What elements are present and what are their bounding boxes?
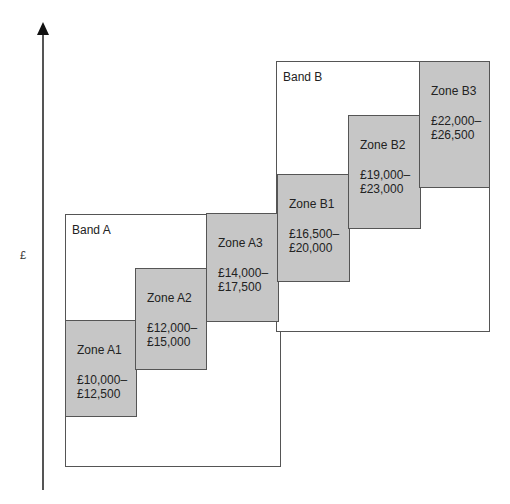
y-axis-label: £ bbox=[20, 249, 26, 261]
band-a-label: Band A bbox=[72, 223, 111, 237]
zone-name: Zone B2 bbox=[360, 138, 405, 152]
zone-range: £10,000–£12,500 bbox=[77, 373, 127, 401]
band-b-label: Band B bbox=[283, 70, 322, 84]
zone-b3: Zone B3 £22,000–£26,500 bbox=[419, 61, 490, 188]
axis-arrow-icon bbox=[37, 22, 49, 35]
zone-name: Zone B1 bbox=[289, 197, 334, 211]
zone-range: £22,000–£26,500 bbox=[431, 114, 481, 142]
zone-name: Zone A3 bbox=[218, 236, 263, 250]
zone-range: £16,500–£20,000 bbox=[289, 227, 339, 255]
zone-a1: Zone A1 £10,000–£12,500 bbox=[65, 320, 137, 417]
zone-a2: Zone A2 £12,000–£15,000 bbox=[135, 268, 207, 370]
zone-b1: Zone B1 £16,500–£20,000 bbox=[277, 174, 350, 282]
zone-a3: Zone A3 £14,000–£17,500 bbox=[206, 213, 279, 322]
zone-name: Zone B3 bbox=[431, 84, 476, 98]
zone-range: £19,000–£23,000 bbox=[360, 168, 410, 196]
y-axis-line bbox=[42, 32, 44, 490]
zone-range: £14,000–£17,500 bbox=[218, 266, 268, 294]
zone-name: Zone A2 bbox=[147, 291, 192, 305]
zone-b2: Zone B2 £19,000–£23,000 bbox=[348, 115, 421, 229]
zone-name: Zone A1 bbox=[77, 343, 122, 357]
zone-range: £12,000–£15,000 bbox=[147, 321, 197, 349]
